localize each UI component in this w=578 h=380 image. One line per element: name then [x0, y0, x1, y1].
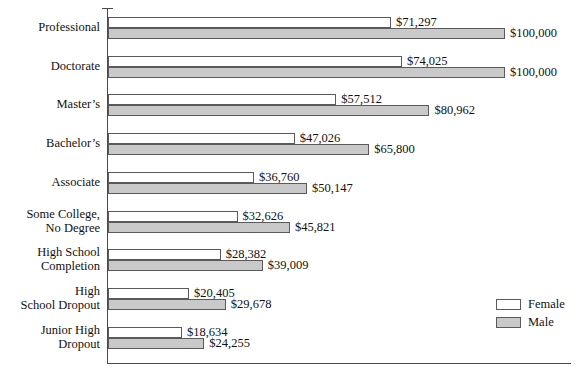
category-label-8: Junior High Dropout: [0, 323, 100, 351]
category-label-7: High School Dropout: [0, 284, 100, 312]
bar-value-label: $24,255: [209, 336, 250, 351]
bar-value-label: $45,821: [295, 220, 336, 235]
category-label-1: Doctorate: [0, 59, 100, 73]
legend-label-male: Male: [528, 315, 554, 330]
bar-female-7[interactable]: [108, 288, 189, 299]
bar-female-2[interactable]: [108, 94, 336, 105]
bar-value-label: $50,147: [312, 181, 353, 196]
category-label-2: Master’s: [0, 97, 100, 111]
category-label-6: High School Completion: [0, 245, 100, 273]
bar-female-8[interactable]: [108, 327, 182, 338]
category-label-3: Bachelor’s: [0, 136, 100, 150]
bar-value-label: $39,009: [268, 258, 309, 273]
bar-male-4[interactable]: [108, 183, 307, 194]
bar-male-2[interactable]: [108, 105, 429, 116]
bar-female-4[interactable]: [108, 172, 254, 183]
legend-label-female: Female: [528, 297, 565, 312]
bar-female-3[interactable]: [108, 133, 295, 144]
bar-male-5[interactable]: [108, 222, 290, 233]
bar-chart: $71,297$100,000$74,025$100,000$57,512$80…: [0, 0, 578, 380]
legend-swatch-female: [496, 299, 521, 310]
bar-value-label: $100,000: [510, 65, 557, 80]
bar-value-label: $100,000: [510, 26, 557, 41]
bar-value-label: $29,678: [231, 297, 272, 312]
bar-female-1[interactable]: [108, 56, 402, 67]
x-axis-line: [107, 363, 571, 364]
bar-male-8[interactable]: [108, 338, 204, 349]
bar-value-label: $80,962: [434, 103, 475, 118]
bar-male-3[interactable]: [108, 144, 369, 155]
bar-female-5[interactable]: [108, 211, 238, 222]
category-label-0: Professional: [0, 20, 100, 34]
legend-swatch-male: [496, 317, 521, 328]
bar-male-1[interactable]: [108, 67, 505, 78]
bar-male-0[interactable]: [108, 28, 505, 39]
bar-female-6[interactable]: [108, 249, 221, 260]
bar-male-6[interactable]: [108, 260, 263, 271]
bar-male-7[interactable]: [108, 299, 226, 310]
bar-female-0[interactable]: [108, 17, 391, 28]
category-label-5: Some College, No Degree: [0, 207, 100, 235]
bar-value-label: $65,800: [374, 142, 415, 157]
category-label-4: Associate: [0, 175, 100, 189]
